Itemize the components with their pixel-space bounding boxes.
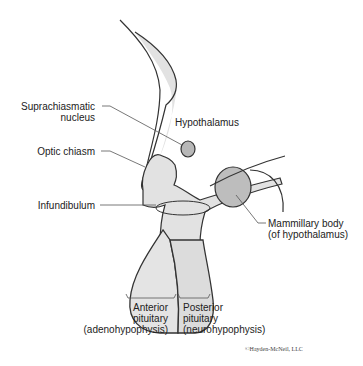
label-line: Mammillary body bbox=[268, 218, 348, 229]
pituitary-illustration bbox=[0, 0, 363, 366]
label-line: Anterior bbox=[70, 302, 168, 313]
label-line: Suprachiasmatic bbox=[10, 101, 95, 112]
label-line: (adenohypophysis) bbox=[70, 324, 168, 335]
label-line: pituitary bbox=[183, 313, 265, 324]
label-optic-chiasm: Optic chiasm bbox=[10, 146, 95, 157]
label-line: (neurohypophysis) bbox=[183, 324, 265, 335]
label-line: Posterior bbox=[183, 302, 265, 313]
copyright-notice: ©Hayden-McNeil, LLC bbox=[245, 346, 303, 352]
label-mammillary-body: Mammillary body (of hypothalamus) bbox=[268, 218, 348, 240]
label-anterior-pituitary: Anterior pituitary (adenohypophysis) bbox=[70, 302, 168, 335]
label-line: nucleus bbox=[10, 112, 95, 123]
label-suprachiasmatic: Suprachiasmatic nucleus bbox=[10, 101, 95, 123]
label-infundibulum: Infundibulum bbox=[10, 200, 95, 211]
diagram-canvas: Suprachiasmatic nucleus Hypothalamus Opt… bbox=[0, 0, 363, 366]
label-line: (of hypothalamus) bbox=[268, 229, 348, 240]
label-hypothalamus: Hypothalamus bbox=[175, 117, 239, 128]
suprachiasmatic-nucleus bbox=[181, 141, 195, 157]
label-posterior-pituitary: Posterior pituitary (neurohypophysis) bbox=[183, 302, 265, 335]
mammillary-body bbox=[215, 167, 251, 207]
label-line: pituitary bbox=[70, 313, 168, 324]
